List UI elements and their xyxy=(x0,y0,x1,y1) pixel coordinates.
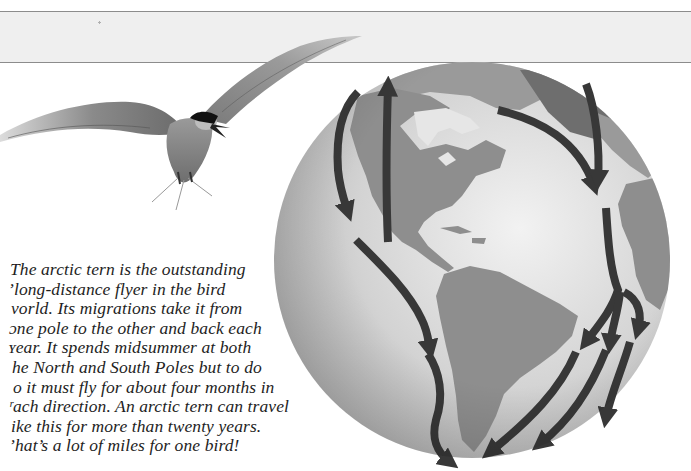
text-line: ʏear. It spends midsummer at both xyxy=(0,338,300,358)
text-line: ɔne pole to the other and back each xyxy=(0,319,300,339)
text-line: ʳach direction. An arctic tern can trave… xyxy=(0,397,300,417)
tern-beak xyxy=(210,124,230,138)
tern-left-wing xyxy=(0,102,186,142)
body-text: The arctic tern is the outstanding ’long… xyxy=(0,260,300,456)
text-line: he North and South Poles but to do xyxy=(0,358,300,378)
text-line: vorld. Its migrations take it from xyxy=(0,299,300,319)
text-line: ike this for more than twenty years. xyxy=(0,417,300,437)
text-line: The arctic tern is the outstanding xyxy=(0,260,300,280)
tern-tail xyxy=(152,178,212,210)
text-line: ʼhat’s a lot of miles for one bird! xyxy=(0,436,300,456)
tern-right-wing xyxy=(200,36,362,124)
text-line: ’long-distance flyer in the bird xyxy=(0,280,300,300)
text-line: o it must fly for about four months in xyxy=(0,378,300,398)
